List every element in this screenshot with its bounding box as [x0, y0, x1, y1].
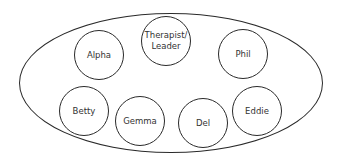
member-del: Del [178, 98, 228, 148]
member-betty: Betty [59, 86, 109, 136]
member-gemma: Gemma [115, 96, 165, 146]
member-label: Alpha [87, 50, 111, 61]
member-label: Gemma [123, 116, 157, 127]
member-therapist-leader: Therapist/ Leader [141, 16, 191, 66]
member-label: Therapist/ Leader [145, 30, 188, 52]
member-alpha: Alpha [74, 30, 124, 80]
member-label: Betty [73, 106, 96, 117]
member-label: Phil [235, 49, 250, 60]
member-eddie: Eddie [232, 86, 282, 136]
member-label: Del [196, 118, 210, 129]
member-phil: Phil [218, 29, 268, 79]
member-label: Eddie [245, 106, 269, 117]
diagram-canvas: Alpha Therapist/ Leader Phil Betty Gemma… [0, 0, 340, 163]
